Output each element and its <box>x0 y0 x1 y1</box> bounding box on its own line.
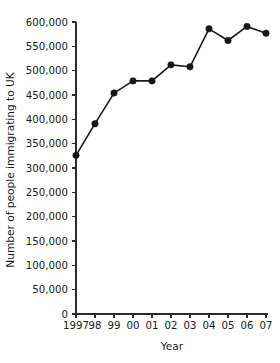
y-tick-label: 300,000 <box>26 163 68 174</box>
y-axis: 050,000100,000150,000200,000250,000300,0… <box>26 17 76 320</box>
x-tick-label: 02 <box>165 320 178 331</box>
y-tick-label: 500,000 <box>26 65 68 76</box>
series-line-immigration <box>76 26 266 155</box>
plot-area <box>73 23 269 158</box>
x-axis: 199798990001020304050607 <box>63 314 272 331</box>
data-point <box>111 90 117 96</box>
y-tick-label: 400,000 <box>26 114 68 125</box>
immigration-line-chart: 050,000100,000150,000200,000250,000300,0… <box>0 0 280 363</box>
x-tick-label: 06 <box>241 320 254 331</box>
x-tick-label: 98 <box>89 320 102 331</box>
y-axis-title: Number of people immigrating to UK <box>4 71 16 268</box>
data-point <box>225 37 231 43</box>
data-point <box>206 26 212 32</box>
x-axis-title: Year <box>160 340 184 352</box>
x-tick-label: 05 <box>222 320 235 331</box>
x-tick-label: 00 <box>127 320 140 331</box>
y-tick-label: 150,000 <box>26 236 68 247</box>
chart-canvas: 050,000100,000150,000200,000250,000300,0… <box>0 0 280 363</box>
data-point <box>263 30 269 36</box>
y-tick-label: 600,000 <box>26 17 68 28</box>
y-tick-label: 200,000 <box>26 211 68 222</box>
data-point <box>244 23 250 29</box>
data-point <box>168 62 174 68</box>
data-point <box>73 152 79 158</box>
y-tick-label: 550,000 <box>26 41 68 52</box>
y-tick-label: 0 <box>62 309 68 320</box>
y-tick-label: 350,000 <box>26 138 68 149</box>
x-tick-label: 07 <box>260 320 273 331</box>
data-point <box>149 78 155 84</box>
x-axis-ticks <box>76 314 266 318</box>
data-point <box>92 121 98 127</box>
y-tick-label: 450,000 <box>26 90 68 101</box>
series-markers <box>73 23 269 158</box>
x-tick-label: 99 <box>108 320 121 331</box>
x-tick-label: 01 <box>146 320 159 331</box>
y-tick-label: 100,000 <box>26 260 68 271</box>
y-axis-ticks <box>72 22 76 314</box>
x-tick-label: 04 <box>203 320 216 331</box>
y-tick-label: 250,000 <box>26 187 68 198</box>
data-point <box>130 78 136 84</box>
y-axis-tick-labels: 050,000100,000150,000200,000250,000300,0… <box>26 17 68 320</box>
x-axis-tick-labels: 199798990001020304050607 <box>63 320 272 331</box>
data-point <box>187 64 193 70</box>
x-tick-label: 1997 <box>63 320 89 331</box>
x-tick-label: 03 <box>184 320 197 331</box>
y-tick-label: 50,000 <box>32 284 68 295</box>
